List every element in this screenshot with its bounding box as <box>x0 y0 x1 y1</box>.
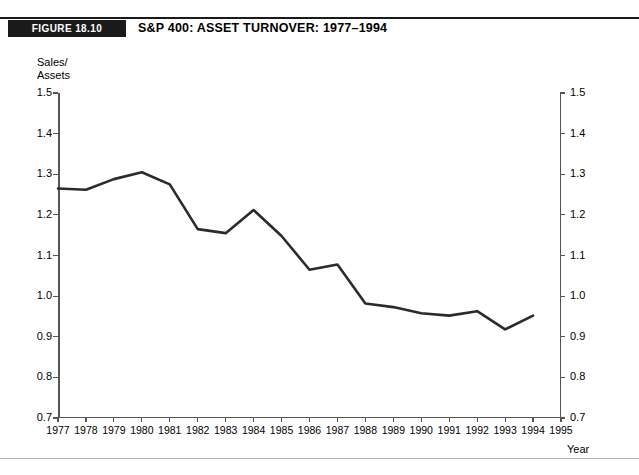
x-tick-label: 1986 <box>298 424 321 436</box>
y-tick-label-right: 1.3 <box>570 167 585 179</box>
y-tick-label-right: 1.5 <box>570 86 585 98</box>
y-tick-label-left: 1.0 <box>37 289 52 301</box>
x-tick-label: 1995 <box>549 424 572 436</box>
x-tick-label: 1981 <box>158 424 181 436</box>
figure-number-badge: FIGURE 18.10 <box>8 20 126 37</box>
x-tick-label: 1994 <box>521 424 544 436</box>
x-tick-label: 1979 <box>102 424 125 436</box>
x-tick-label: 1985 <box>270 424 293 436</box>
y-axis-title: Sales/ Assets <box>37 56 70 81</box>
y-tick-label-right: 1.1 <box>570 249 585 261</box>
x-tick-label: 1980 <box>130 424 153 436</box>
figure-container: FIGURE 18.10 S&P 400: ASSET TURNOVER: 19… <box>0 0 639 475</box>
x-tick-label: 1993 <box>493 424 516 436</box>
figure-title: S&P 400: ASSET TURNOVER: 1977–1994 <box>138 21 387 35</box>
y-tick-label-left: 1.1 <box>37 249 52 261</box>
y-tick-label-left: 0.7 <box>37 411 52 423</box>
x-tick-label: 1982 <box>186 424 209 436</box>
y-tick-label-right: 1.4 <box>570 127 585 139</box>
x-tick-label: 1989 <box>382 424 405 436</box>
x-tick-label: 1978 <box>74 424 97 436</box>
x-tick-label: 1977 <box>46 424 69 436</box>
y-tick-label-right: 0.9 <box>570 330 585 342</box>
x-tick-label: 1991 <box>438 424 461 436</box>
x-tick-label: 1987 <box>326 424 349 436</box>
y-tick-label-right: 0.8 <box>570 370 585 382</box>
y-tick-label-right: 1.2 <box>570 208 585 220</box>
y-tick-label-left: 0.9 <box>37 330 52 342</box>
x-tick-label: 1990 <box>410 424 433 436</box>
y-tick-label-left: 0.8 <box>37 370 52 382</box>
y-tick-label-left: 1.4 <box>37 127 52 139</box>
y-tick-label-left: 1.5 <box>37 86 52 98</box>
y-tick-label-left: 1.2 <box>37 208 52 220</box>
x-tick-label: 1984 <box>242 424 265 436</box>
data-series-line <box>58 93 561 418</box>
footer-divider <box>0 458 639 459</box>
y-tick-label-right: 0.7 <box>570 411 585 423</box>
y-tick-label-left: 1.3 <box>37 167 52 179</box>
x-axis-title: Year <box>567 443 589 455</box>
y-tick-label-right: 1.0 <box>570 289 585 301</box>
plot-area: 0.70.80.91.01.11.21.31.41.5 0.70.80.91.0… <box>58 93 561 418</box>
x-tick-label: 1992 <box>465 424 488 436</box>
x-tick-label: 1988 <box>354 424 377 436</box>
header-divider <box>0 17 639 19</box>
x-tick-label: 1983 <box>214 424 237 436</box>
